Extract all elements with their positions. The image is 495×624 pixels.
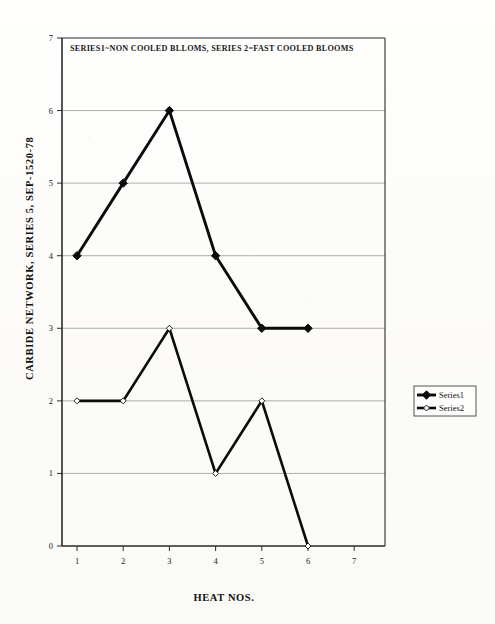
x-tick-label: 4 bbox=[213, 556, 218, 566]
legend-label: Series2 bbox=[439, 403, 464, 413]
x-tick-label: 3 bbox=[167, 556, 171, 566]
legend-label: Series1 bbox=[439, 390, 464, 400]
y-tick-label: 2 bbox=[49, 396, 53, 406]
x-tick-label: 1 bbox=[75, 556, 79, 566]
chart-page: 01234567 1234567 SERIES1~NON COOLED BLLO… bbox=[0, 0, 495, 624]
y-tick-label: 7 bbox=[49, 33, 53, 43]
y-tick-label: 0 bbox=[49, 541, 53, 551]
x-tick-label: 7 bbox=[352, 556, 356, 566]
chart-legend[interactable]: Series1Series2 bbox=[414, 386, 476, 416]
chart-title: SERIES1~NON COOLED BLLOMS, SERIES 2=FAST… bbox=[70, 44, 354, 53]
x-axis: 1234567 bbox=[75, 546, 356, 566]
y-tick-label: 5 bbox=[49, 178, 53, 188]
x-tick-label: 6 bbox=[306, 556, 310, 566]
y-tick-label: 1 bbox=[49, 468, 53, 478]
x-tick-label: 2 bbox=[121, 556, 125, 566]
data-point bbox=[74, 398, 80, 404]
series-2 bbox=[74, 325, 311, 549]
y-tick-label: 3 bbox=[49, 323, 53, 333]
y-tick-label: 4 bbox=[49, 251, 54, 261]
data-point bbox=[304, 324, 312, 332]
gridlines bbox=[62, 111, 385, 474]
data-point bbox=[305, 543, 311, 549]
x-tick-label: 5 bbox=[260, 556, 264, 566]
y-axis: 01234567 bbox=[49, 33, 62, 551]
series-line bbox=[77, 111, 308, 329]
plot-frame bbox=[62, 38, 385, 546]
y-axis-title: CARBIDE NETWORK, SERIES 5, SEP-1520-78 bbox=[24, 137, 35, 380]
series-line bbox=[77, 328, 308, 546]
series-1 bbox=[73, 106, 312, 332]
y-tick-label: 6 bbox=[49, 106, 53, 116]
carbide-network-line-chart: 01234567 1234567 SERIES1~NON COOLED BLLO… bbox=[0, 0, 495, 624]
x-axis-title: HEAT NOS. bbox=[193, 592, 254, 603]
series-layer bbox=[73, 106, 312, 549]
